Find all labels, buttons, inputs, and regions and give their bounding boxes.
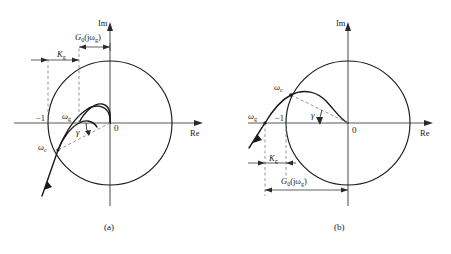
panel-a: Kg G0(jωg) γ −1 ωg ωc 0 Im Re (a) bbox=[14, 18, 203, 232]
label-omega-g-a: ωg bbox=[62, 111, 71, 122]
panel-b: Kg G0(jωg) γ ωg −1 ωc 0 Im Re (b) bbox=[248, 18, 433, 232]
marker-omega-c-b bbox=[289, 93, 293, 97]
label-re-axis-b: Re bbox=[420, 128, 430, 138]
caption-a: (a) bbox=[104, 222, 114, 232]
label-origin-a: 0 bbox=[114, 123, 119, 133]
nyquist-locus-a bbox=[42, 106, 110, 196]
label-im-axis-a: Im bbox=[98, 18, 108, 28]
dimension-kg-a bbox=[31, 58, 79, 63]
label-im-axis-b: Im bbox=[336, 18, 346, 28]
phase-margin-arrow-b bbox=[316, 117, 323, 125]
label-gamma-b: γ bbox=[311, 110, 315, 120]
label-minus-one-a: −1 bbox=[36, 113, 45, 123]
label-kg-b: Kg bbox=[268, 153, 278, 164]
dimension-g0-a bbox=[79, 43, 110, 51]
caption-b: (b) bbox=[334, 222, 345, 232]
label-kg-a: Kg bbox=[56, 49, 66, 60]
label-minus-one-b: −1 bbox=[275, 113, 284, 123]
label-omega-c-a: ωc bbox=[38, 142, 47, 153]
imaginary-axis-b bbox=[345, 22, 351, 206]
label-omega-c-b: ωc bbox=[274, 82, 283, 93]
marker-omega-c-a bbox=[56, 148, 59, 151]
label-g0-b: G0(jωg) bbox=[281, 176, 307, 187]
dimension-g0-b bbox=[265, 188, 348, 193]
label-gamma-a: γ bbox=[76, 127, 80, 137]
marker-omega-g-b bbox=[263, 121, 266, 124]
label-omega-g-b: ωg bbox=[248, 111, 257, 122]
label-origin-b: 0 bbox=[352, 125, 357, 135]
label-g0-a: G0(jωg) bbox=[75, 32, 101, 43]
label-re-axis-a: Re bbox=[190, 128, 200, 138]
nyquist-figure: ​ Kg bbox=[0, 0, 451, 254]
nyquist-locus-b bbox=[249, 91, 348, 148]
